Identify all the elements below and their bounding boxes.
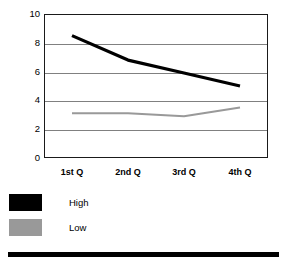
chart-container: 0246810 1st Q2nd Q3rd Q4th Q HighLow (0, 0, 287, 266)
chart-legend: HighLow (9, 191, 179, 241)
x-tick-label: 2nd Q (100, 167, 156, 177)
x-tick-label: 3rd Q (156, 167, 212, 177)
y-tick-label: 10 (4, 9, 40, 19)
y-tick-label: 4 (4, 95, 40, 105)
series-line-low (72, 108, 240, 117)
legend-label: Low (69, 222, 86, 233)
bottom-rule (8, 252, 279, 257)
legend-label: High (69, 197, 89, 208)
legend-swatch-low (9, 219, 42, 236)
series-line-high (72, 36, 240, 86)
x-tick-label: 1st Q (44, 167, 100, 177)
series-layer (44, 14, 268, 158)
y-tick-label: 8 (4, 38, 40, 48)
x-tick-label: 4th Q (212, 167, 268, 177)
y-tick-label: 6 (4, 67, 40, 77)
y-tick-label: 0 (4, 153, 40, 163)
legend-item-high[interactable]: High (9, 191, 179, 213)
legend-item-low[interactable]: Low (9, 216, 179, 238)
y-tick-label: 2 (4, 124, 40, 134)
legend-swatch-high (9, 194, 42, 211)
